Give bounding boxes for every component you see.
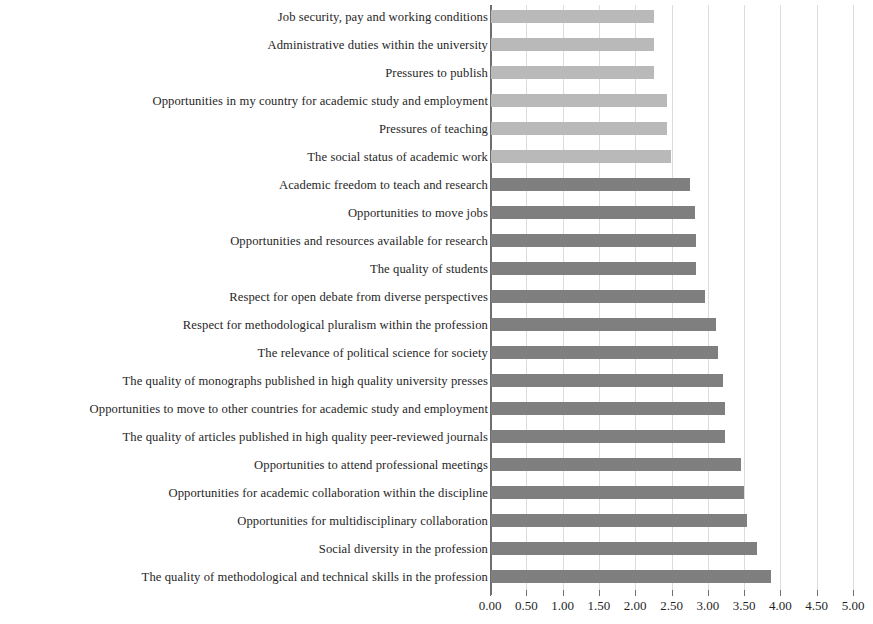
x-tick-mark (635, 590, 636, 596)
plot-area: Job security, pay and working conditions… (0, 0, 873, 596)
x-tick-mark (672, 590, 673, 596)
bar (491, 374, 723, 387)
x-tick-mark (599, 590, 600, 596)
bar (491, 38, 654, 51)
bar (491, 402, 725, 415)
category-label: Administrative duties within the univers… (8, 38, 488, 52)
bar-row: Opportunities to move jobs (0, 199, 873, 227)
bar-row: Administrative duties within the univers… (0, 31, 873, 59)
bar (491, 10, 654, 23)
bar-row: The quality of articles published in hig… (0, 423, 873, 451)
bar (491, 234, 696, 247)
x-tick-mark (526, 590, 527, 596)
x-tick-mark (853, 590, 854, 596)
category-label: Pressures to publish (8, 66, 488, 80)
category-label: Academic freedom to teach and research (8, 178, 488, 192)
bar-row: Respect for methodological pluralism wit… (0, 311, 873, 339)
category-label: The social status of academic work (8, 150, 488, 164)
category-label: The quality of students (8, 262, 488, 276)
bar (491, 150, 671, 163)
bar-row: The relevance of political science for s… (0, 339, 873, 367)
bar-row: Opportunities to move to other countries… (0, 395, 873, 423)
bar (491, 486, 744, 499)
bar (491, 570, 771, 583)
category-label: Job security, pay and working conditions (8, 10, 488, 24)
category-label: Opportunities to move jobs (8, 206, 488, 220)
bar (491, 178, 690, 191)
category-label: Opportunities for multidisciplinary coll… (8, 514, 488, 528)
x-axis: 0.000.501.001.502.002.503.003.504.004.50… (0, 590, 873, 624)
category-label: Opportunities to attend professional mee… (8, 458, 488, 472)
bar-row: Social diversity in the profession (0, 535, 873, 563)
x-tick-mark (780, 590, 781, 596)
bar (491, 514, 747, 527)
category-label: Respect for methodological pluralism wit… (8, 318, 488, 332)
category-label: Social diversity in the profession (8, 542, 488, 556)
x-tick-label: 5.00 (828, 598, 873, 614)
bar-row: The quality of methodological and techni… (0, 563, 873, 591)
category-label: The relevance of political science for s… (8, 346, 488, 360)
bar-row: Pressures to publish (0, 59, 873, 87)
category-label: The quality of methodological and techni… (8, 570, 488, 584)
bar (491, 122, 667, 135)
bar-row: Pressures of teaching (0, 115, 873, 143)
bar (491, 430, 725, 443)
category-label: Opportunities and resources available fo… (8, 234, 488, 248)
x-tick-mark (708, 590, 709, 596)
bar-row: The quality of monographs published in h… (0, 367, 873, 395)
horizontal-bar-chart: Job security, pay and working conditions… (0, 0, 873, 624)
category-label: The quality of articles published in hig… (8, 430, 488, 444)
category-label: The quality of monographs published in h… (8, 374, 488, 388)
category-label: Respect for open debate from diverse per… (8, 290, 488, 304)
bar (491, 66, 654, 79)
bar-row: Opportunities in my country for academic… (0, 87, 873, 115)
x-tick-mark (563, 590, 564, 596)
x-tick-mark (817, 590, 818, 596)
bar-row: The quality of students (0, 255, 873, 283)
bar-row: Job security, pay and working conditions (0, 3, 873, 31)
bar (491, 346, 718, 359)
bar-row: Opportunities for multidisciplinary coll… (0, 507, 873, 535)
bar-row: Opportunities to attend professional mee… (0, 451, 873, 479)
bar (491, 206, 695, 219)
category-label: Pressures of teaching (8, 122, 488, 136)
category-label: Opportunities to move to other countries… (8, 402, 488, 416)
category-label: Opportunities in my country for academic… (8, 94, 488, 108)
category-label: Opportunities for academic collaboration… (8, 486, 488, 500)
bar-row: Opportunities for academic collaboration… (0, 479, 873, 507)
bar-row: Opportunities and resources available fo… (0, 227, 873, 255)
bar (491, 94, 667, 107)
bar (491, 318, 716, 331)
bar-row: Academic freedom to teach and research (0, 171, 873, 199)
bar (491, 458, 741, 471)
bar (491, 262, 696, 275)
bar (491, 542, 757, 555)
bar-row: The social status of academic work (0, 143, 873, 171)
bar (491, 290, 705, 303)
bar-row: Respect for open debate from diverse per… (0, 283, 873, 311)
x-tick-mark (490, 590, 491, 596)
x-tick-mark (744, 590, 745, 596)
